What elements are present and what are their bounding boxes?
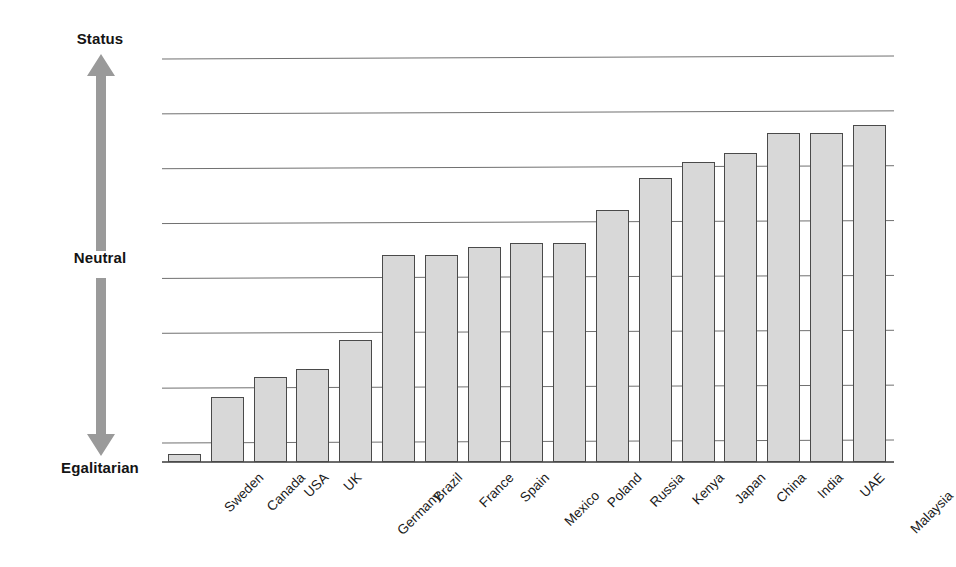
x-axis-labels: SwedenCanadaUSAUKGermanyBrazilFranceSpai…: [162, 466, 922, 566]
bar: [168, 454, 201, 462]
x-axis-label: Mexico: [562, 488, 603, 529]
x-axis-label: Poland: [605, 470, 645, 510]
bar: [724, 153, 757, 462]
bar: [596, 210, 629, 462]
bar: [639, 178, 672, 462]
x-axis-label: Spain: [517, 470, 552, 505]
x-axis-label: Russia: [647, 470, 687, 510]
x-axis-label: UK: [341, 470, 365, 494]
bars-layer: [162, 40, 902, 470]
bar: [682, 162, 715, 462]
double-headed-arrow-icon: [78, 50, 124, 460]
bar: [211, 397, 244, 462]
bar: [767, 133, 800, 462]
bar: [553, 243, 586, 462]
x-axis-label: China: [774, 470, 810, 506]
bar: [468, 247, 501, 462]
x-axis-label: Kenya: [689, 470, 727, 508]
x-axis-label: UAE: [857, 470, 887, 500]
x-axis-label: Japan: [731, 470, 768, 507]
x-axis-label: Malaysia: [907, 488, 955, 536]
bar: [810, 133, 843, 462]
bar: [339, 340, 372, 462]
x-axis-label: India: [815, 470, 846, 501]
bar: [425, 255, 458, 462]
bar: [853, 125, 886, 462]
x-axis-label: France: [476, 470, 516, 510]
bar: [296, 369, 329, 462]
x-axis-label: Sweden: [221, 470, 266, 515]
bar: [510, 243, 543, 462]
x-axis-label: USA: [301, 470, 331, 500]
bar: [382, 255, 415, 462]
x-axis-label: Brazil: [431, 470, 465, 504]
bar: [254, 377, 287, 462]
x-axis-label: Canada: [264, 470, 308, 514]
plot-area: [162, 40, 902, 470]
